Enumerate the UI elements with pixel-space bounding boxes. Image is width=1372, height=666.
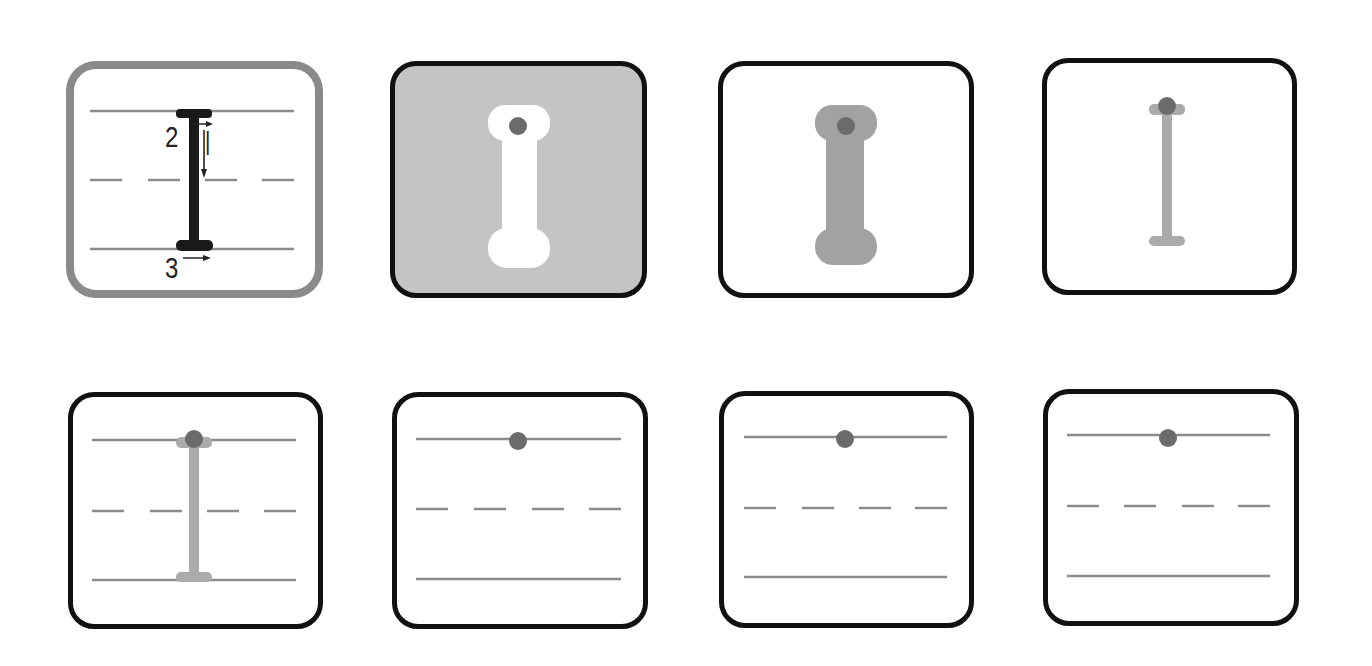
practice-card-2[interactable] [719, 391, 974, 628]
practice-area-2[interactable] [724, 396, 969, 623]
stroke-3-label: 3 [165, 253, 178, 283]
stroke-order-diagram [74, 69, 315, 290]
letter-i-thin-glyph [1149, 104, 1185, 246]
start-dot-icon [836, 430, 854, 448]
stroke-2-label: 2 [165, 122, 178, 152]
trace-on-lines-card[interactable] [68, 392, 323, 629]
start-dot-icon [1159, 429, 1177, 447]
start-dot-icon [185, 430, 203, 448]
practice-area-1[interactable] [397, 397, 643, 624]
trace-on-lines-area[interactable] [73, 397, 318, 624]
practice-card-1[interactable] [392, 392, 648, 629]
stroke-order-card: | 2 3 [66, 61, 323, 298]
bold-trace-card [718, 61, 974, 298]
reverse-glyph-card [390, 61, 647, 298]
reverse-glyph [395, 66, 642, 293]
bold-trace-glyph [723, 66, 969, 293]
start-dot-icon [837, 117, 855, 135]
start-dot-icon [509, 117, 527, 135]
practice-area-3[interactable] [1048, 394, 1294, 621]
thin-trace-card [1042, 58, 1297, 295]
stroke-1-label: | [205, 126, 210, 156]
stroke-3-arrow-icon [183, 255, 211, 261]
practice-card-3[interactable] [1043, 389, 1299, 626]
letter-i-thin-glyph [176, 437, 212, 582]
start-dot-icon [509, 432, 527, 450]
start-dot-icon [1158, 97, 1176, 115]
thin-trace-glyph [1047, 63, 1292, 290]
